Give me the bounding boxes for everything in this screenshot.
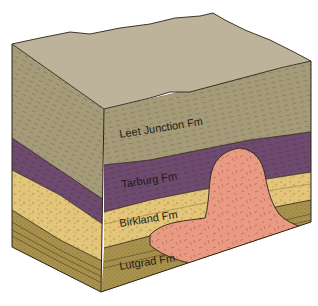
geologic-block-diagram: Leet Junction Fm Tarburg Fm Birkland Fm … [0, 0, 318, 306]
